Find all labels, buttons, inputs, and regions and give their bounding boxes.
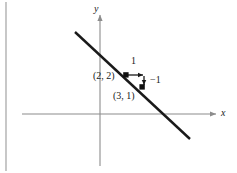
point-marker-3-1 [139, 84, 144, 89]
figure-canvas: (2, 2) (3, 1) 1 −1 y x [0, 0, 237, 173]
point-label-3-1: (3, 1) [113, 91, 135, 101]
run-value-label: 1 [131, 56, 136, 66]
point-marker-2-2 [123, 72, 128, 77]
graph-svg [0, 0, 237, 173]
rise-value-label: −1 [150, 75, 161, 85]
plotted-line [75, 32, 190, 139]
x-axis-label: x [221, 108, 225, 118]
point-label-2-2: (2, 2) [93, 71, 115, 81]
y-axis-label: y [94, 4, 98, 14]
